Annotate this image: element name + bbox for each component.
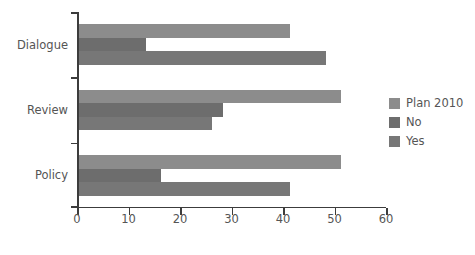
legend-label: Plan 2010 (406, 98, 463, 110)
bar-dialogue-yes (79, 51, 326, 65)
y-axis-label-dialogue: Dialogue (0, 38, 68, 52)
y-axis-label-policy: Policy (0, 168, 68, 182)
legend-swatch-icon (389, 117, 400, 128)
x-axis-label-20: 20 (173, 212, 188, 226)
x-axis-label-30: 30 (224, 212, 239, 226)
bar-policy-yes (79, 182, 290, 196)
bar-dialogue-plan-2010 (79, 24, 290, 38)
bar-review-no (79, 103, 223, 117)
y-tick-2 (71, 143, 77, 145)
bar-review-yes (79, 117, 213, 131)
legend-swatch-icon (389, 98, 400, 109)
x-axis-label-40: 40 (276, 212, 291, 226)
plot-area (77, 12, 386, 208)
x-axis-label-0: 0 (73, 212, 80, 226)
bar-chart: DialogueReviewPolicy 0102030405060 Plan … (0, 0, 475, 255)
legend-label: No (406, 117, 422, 129)
legend-label: Yes (406, 136, 425, 148)
bar-policy-no (79, 169, 161, 183)
x-axis-label-10: 10 (121, 212, 136, 226)
y-tick-1 (71, 77, 77, 79)
y-axis-label-review: Review (0, 103, 68, 117)
x-axis-label-60: 60 (379, 212, 394, 226)
chart-legend: Plan 2010NoYes (389, 94, 463, 151)
bar-policy-plan-2010 (79, 155, 342, 169)
legend-item-yes[interactable]: Yes (389, 132, 463, 151)
bar-review-plan-2010 (79, 90, 342, 104)
bar-dialogue-no (79, 38, 146, 52)
legend-item-plan-2010[interactable]: Plan 2010 (389, 94, 463, 113)
legend-item-no[interactable]: No (389, 113, 463, 132)
y-axis-top-cap (71, 12, 77, 14)
x-axis-label-50: 50 (327, 212, 342, 226)
legend-swatch-icon (389, 136, 400, 147)
